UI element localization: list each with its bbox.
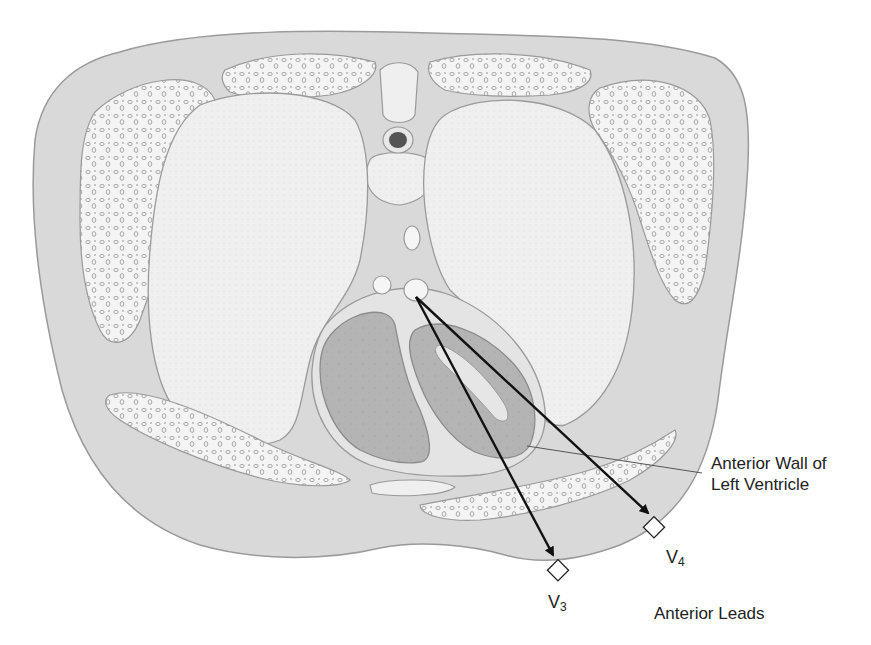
lead-label-v3: V3 <box>548 592 567 613</box>
lead-v4-letter: V <box>666 547 678 567</box>
anterior-wall-label: Anterior Wall of Left Ventricle <box>711 453 827 495</box>
chest-cross-section-diagram <box>0 0 871 645</box>
vena-cava <box>373 276 391 294</box>
lead-label-v4: V4 <box>666 547 685 568</box>
anterior-leads-label: Anterior Leads <box>654 603 765 624</box>
lead-v4-number: 4 <box>678 555 685 569</box>
anterior-wall-label-line1: Anterior Wall of <box>711 453 827 474</box>
esophagus <box>404 226 420 250</box>
anterior-wall-label-line2: Left Ventricle <box>711 474 827 495</box>
lead-v3-letter: V <box>548 592 560 612</box>
lead-v3-number: 3 <box>560 600 567 614</box>
spinal-cord <box>389 132 407 148</box>
electrode-v3 <box>547 560 568 581</box>
spinous-process <box>380 63 418 123</box>
